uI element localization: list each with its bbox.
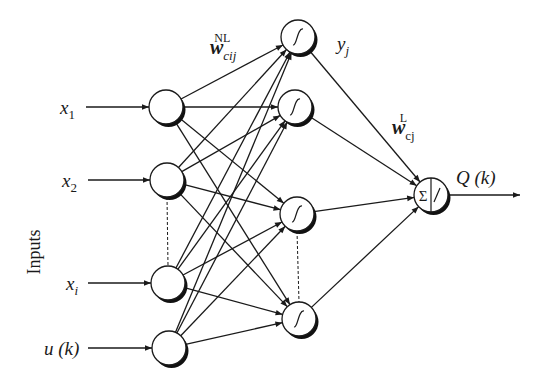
hidden-node-h3 xyxy=(280,197,317,234)
input-node-x2 xyxy=(150,163,187,200)
edge-x2-h1 xyxy=(178,50,286,168)
edge-uk-h1 xyxy=(176,53,292,333)
inputs-axis-label: Inputs xyxy=(24,230,44,275)
input-node-uk xyxy=(152,331,189,368)
hidden-node-h1 xyxy=(281,20,318,57)
input-label-x1: x1 xyxy=(59,97,75,122)
input-label-uk: u (k) xyxy=(44,338,79,360)
nodes: Σ xyxy=(149,20,451,368)
hidden-node-h4 xyxy=(282,302,319,339)
input-node-xi xyxy=(151,266,188,303)
edge-x2-h4 xyxy=(179,192,288,306)
sum-icon: Σ xyxy=(419,188,428,204)
input-node-x1 xyxy=(149,90,186,127)
input-node-uk-circle xyxy=(152,331,186,365)
hidden-ellipsis-line xyxy=(297,231,299,302)
input-node-x2-circle xyxy=(150,163,184,197)
input-label-xi: xi xyxy=(65,273,78,298)
edge-h4-out xyxy=(311,207,418,308)
edge-uk-h4 xyxy=(186,323,283,345)
hidden-node-h2 xyxy=(278,90,315,127)
input-ellipsis-line xyxy=(167,197,168,266)
weight-label-linear: wcjL xyxy=(392,111,415,143)
input-node-x1-circle xyxy=(149,90,183,124)
weight-label-nonlinear: wcijNL xyxy=(210,31,237,63)
network-svg: Σ Inputs x1 x2 xi u (k) wcijNL yj xyxy=(0,0,538,390)
input-label-x2: x2 xyxy=(61,170,77,195)
hidden-node-h4-circle xyxy=(282,302,316,336)
edge-h3-out xyxy=(314,197,414,211)
hidden-output-label: yj xyxy=(335,33,349,58)
neural-network-diagram: Σ Inputs x1 x2 xi u (k) wcijNL yj xyxy=(0,0,538,390)
output-node: Σ xyxy=(414,178,451,215)
edge-x1-h3 xyxy=(179,118,284,203)
input-node-xi-circle xyxy=(151,266,185,300)
edge-xi-h1 xyxy=(176,52,290,268)
hidden-node-h3-circle xyxy=(280,197,314,231)
hidden-node-h2-circle xyxy=(278,90,312,124)
output-label: Q (k) xyxy=(456,167,496,189)
hidden-node-h1-circle xyxy=(281,20,315,54)
